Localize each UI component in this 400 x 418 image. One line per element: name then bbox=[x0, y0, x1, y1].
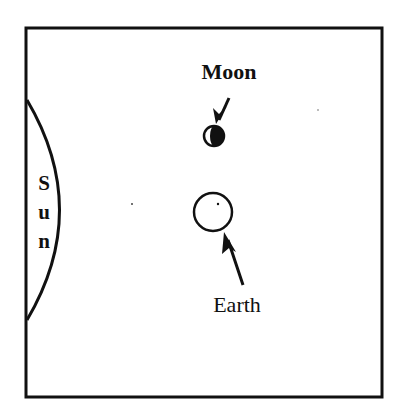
sun-letter-u: u bbox=[38, 200, 50, 224]
sun-letter-n: n bbox=[38, 229, 50, 253]
moon-arrow-icon bbox=[213, 98, 229, 124]
sun-letter-s: S bbox=[38, 171, 50, 195]
sun-earth-moon-diagram: S u n Moon Earth bbox=[0, 0, 400, 418]
speck bbox=[131, 203, 133, 205]
sun-label: S u n bbox=[38, 171, 50, 253]
moon-icon bbox=[204, 126, 224, 146]
speck bbox=[317, 109, 319, 111]
moon-label: Moon bbox=[202, 59, 257, 84]
earth-label: Earth bbox=[213, 292, 261, 317]
earth-arrow-icon bbox=[222, 232, 243, 285]
earth-icon bbox=[194, 193, 232, 231]
